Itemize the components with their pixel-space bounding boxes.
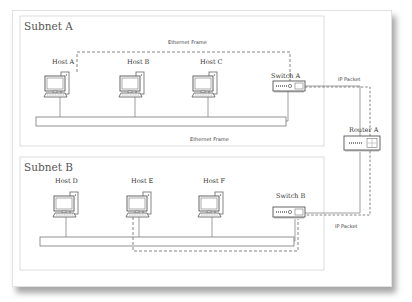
subnet-a-title: Subnet A bbox=[24, 20, 73, 32]
ip-packet-label-top: IP Packet bbox=[338, 76, 360, 82]
ip-packet-label-bottom: IP Packet bbox=[335, 223, 357, 229]
host-e-computer-icon[interactable] bbox=[126, 192, 151, 217]
ethernet-bus-b bbox=[40, 237, 294, 246]
ethernet-bus-a bbox=[36, 117, 286, 126]
host-b-label: Host B bbox=[127, 58, 150, 66]
host-a-computer-icon[interactable] bbox=[44, 72, 69, 97]
host-d-label: Host D bbox=[55, 177, 78, 185]
host-a-label: Host A bbox=[52, 58, 75, 66]
ethernet-frame-label-bottom: Ethernet Frame bbox=[190, 136, 229, 142]
host-e-label: Host E bbox=[131, 177, 154, 185]
network-diagram: Subnet A Subnet B Ethernet Frame Host A … bbox=[0, 0, 412, 302]
switch-a-label: Switch A bbox=[271, 72, 301, 80]
ethernet-frame-path-a bbox=[77, 52, 290, 82]
host-b-computer-icon[interactable] bbox=[119, 72, 144, 97]
router-a-router-icon[interactable] bbox=[344, 136, 380, 151]
host-c-label: Host C bbox=[200, 58, 223, 66]
ethernet-frame-label-top: Ethernet Frame bbox=[168, 39, 207, 45]
subnet-b-title: Subnet B bbox=[24, 161, 73, 173]
host-f-label: Host F bbox=[203, 177, 226, 185]
host-f-computer-icon[interactable] bbox=[198, 192, 223, 217]
switch-b-label: Switch B bbox=[276, 192, 306, 200]
switch-b-switch-icon[interactable] bbox=[273, 207, 305, 218]
host-d-computer-icon[interactable] bbox=[53, 192, 78, 217]
switch-a-switch-icon[interactable] bbox=[273, 81, 305, 92]
router-a-label: Router A bbox=[349, 126, 379, 134]
host-c-computer-icon[interactable] bbox=[192, 72, 217, 97]
